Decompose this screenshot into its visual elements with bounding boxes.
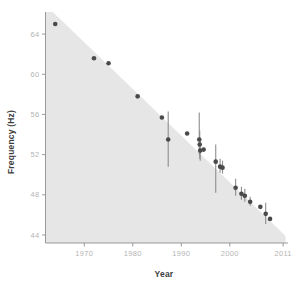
y-tick-label: 44 (31, 231, 40, 240)
data-point (166, 137, 171, 142)
y-tick-label: 56 (31, 110, 40, 119)
x-tick-label: 2000 (221, 249, 239, 258)
data-point (92, 56, 97, 61)
data-point (268, 217, 273, 222)
x-tick-label: 2011 (274, 249, 291, 258)
data-point (243, 193, 248, 198)
data-point (220, 165, 225, 170)
chart-container: 444852566064 19701980199020002011 Year F… (0, 0, 304, 290)
data-point (185, 131, 190, 136)
data-point (201, 147, 206, 152)
frequency-vs-year-scatter-plot: 444852566064 19701980199020002011 Year F… (0, 0, 304, 290)
x-axis-tick-marks (84, 243, 283, 247)
data-point (160, 115, 165, 120)
data-point (53, 22, 58, 27)
data-point (233, 185, 238, 190)
data-point (263, 212, 268, 217)
data-point (258, 205, 263, 210)
y-tick-label: 52 (31, 150, 40, 159)
x-tick-label: 1970 (75, 249, 93, 258)
data-point (213, 159, 218, 164)
data-point (197, 137, 202, 142)
y-axis-tick-marks (42, 34, 46, 235)
y-tick-label: 60 (31, 70, 40, 79)
y-tick-label: 48 (31, 190, 40, 199)
y-axis-tick-labels: 444852566064 (31, 30, 40, 240)
data-point (135, 94, 140, 99)
shaded-trend-band (46, 12, 286, 243)
data-point (197, 142, 202, 147)
y-axis-title: Frequency (Hz) (6, 110, 16, 174)
x-tick-label: 1990 (172, 249, 190, 258)
y-tick-label: 64 (31, 30, 40, 39)
x-tick-label: 1980 (124, 249, 142, 258)
x-axis-title: Year (155, 269, 174, 279)
data-point (248, 200, 253, 205)
x-axis-tick-labels: 19701980199020002011 (75, 249, 291, 258)
data-point (106, 61, 111, 66)
